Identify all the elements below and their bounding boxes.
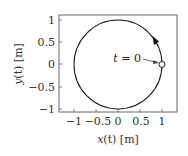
x-axis-label-rest: (t) [m] [103,133,139,146]
y-axis-label-rest: (t) [m] [12,43,25,79]
chart: −1 −0.5 0 0.5 1 1 0.5 0 −0.5 −1 t = 0 x(… [0,0,188,156]
t0-annotation-rest: = 0 [118,52,141,65]
y-axis-label: y(t) [m] [12,43,25,86]
y-tick-label: −1 [39,103,55,116]
y-tick-label: 1 [48,14,55,27]
x-tick-label: 0 [115,115,122,128]
annotation-arrow-icon [153,60,159,64]
x-tick-labels: −1 −0.5 0 0.5 1 [66,115,166,128]
x-tick-label: −0.5 [85,115,112,128]
direction-arrow-icon [153,36,160,45]
x-tick-label: 1 [159,115,166,128]
y-tick-labels: 1 0.5 0 −0.5 −1 [28,14,55,116]
start-marker [159,62,165,68]
x-tick-label: −1 [66,115,82,128]
x-axis-label: x(t) [m] [97,133,139,146]
t0-annotation: t = 0 [113,52,141,65]
y-tick-label: 0.5 [38,36,56,49]
y-tick-label: 0 [48,58,55,71]
y-tick-label: −0.5 [28,81,55,94]
x-tick-label: 0.5 [132,115,150,128]
